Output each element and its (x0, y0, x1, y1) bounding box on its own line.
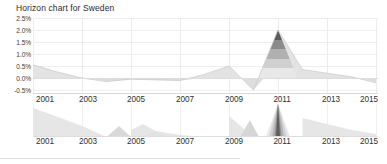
chart-title: Horizon chart for Sweden (16, 3, 114, 13)
band-x-tick-label: 2011 (273, 137, 290, 146)
band-x-tick-label: 2007 (176, 137, 194, 146)
band-x-tick-label: 2005 (127, 137, 145, 146)
series-area-negative (92, 78, 376, 90)
y-tick-label: 0.5% (16, 63, 31, 70)
y-tick-label: 1.0% (16, 51, 31, 58)
band-x-tick-label: 2013 (322, 137, 340, 146)
band-x-tick-label: 2003 (79, 137, 97, 146)
x-tick-label: 2011 (273, 95, 290, 104)
band-x-tick-label: 2009 (225, 137, 243, 146)
horizontal-gridlines (33, 19, 378, 91)
y-tick-label: 2.0% (16, 27, 31, 34)
main-plot-svg (33, 18, 378, 94)
band-x-axis-labels: 2001 2003 2005 2007 2009 2011 2013 2015 (33, 137, 378, 153)
y-tick-label: -0.5% (14, 87, 31, 94)
y-tick-label: 0.0% (16, 75, 31, 82)
series-line (33, 30, 376, 90)
horizon-band-svg (33, 104, 378, 137)
main-plot-area (33, 18, 378, 94)
horizon-chart-figure: Horizon chart for Sweden 2.5% 2.0% 1.5% … (0, 0, 387, 164)
footer-divider (0, 158, 240, 159)
x-tick-label: 2013 (322, 95, 340, 104)
y-tick-label: 2.5% (16, 15, 31, 22)
y-axis-labels: 2.5% 2.0% 1.5% 1.0% 0.5% 0.0% -0.5% (0, 16, 31, 96)
band-x-tick-label: 2015 (360, 137, 378, 146)
x-tick-label: 2003 (79, 95, 97, 104)
y-tick-label: 1.5% (16, 39, 31, 46)
x-tick-label: 2007 (176, 95, 194, 104)
main-chart-panel: 2.5% 2.0% 1.5% 1.0% 0.5% 0.0% -0.5% (0, 16, 387, 100)
series-area-positive (33, 30, 376, 90)
x-tick-label: 2009 (225, 95, 243, 104)
x-tick-label: 2001 (36, 95, 54, 104)
horizon-band-panel: 2001 2003 2005 2007 2009 2011 2013 2015 (0, 104, 387, 162)
x-tick-label: 2005 (127, 95, 145, 104)
horizon-band-plot-area (33, 104, 378, 137)
x-tick-label: 2015 (360, 95, 378, 104)
horizon-folded-bands (33, 104, 376, 137)
band-x-tick-label: 2001 (36, 137, 54, 146)
vertical-gridlines (34, 18, 377, 94)
